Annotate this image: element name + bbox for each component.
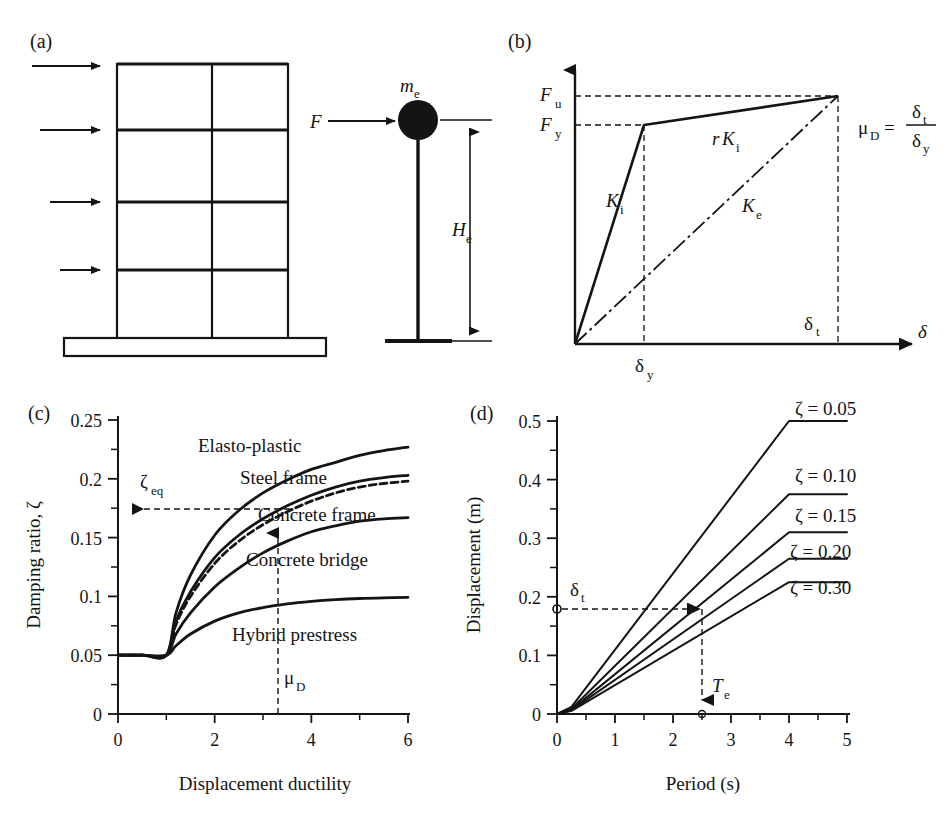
equation-mu: μ xyxy=(858,117,868,138)
panel-c: (c) 024600.050.10.150.20.25 Elasto-plast… xyxy=(23,402,413,794)
series-label: Concrete frame xyxy=(258,504,376,525)
sdof-mass-label: m xyxy=(400,75,414,96)
y-tick-label: 0 xyxy=(93,705,102,725)
x-tick-label: 2 xyxy=(210,730,219,750)
zeta-eq-subscript: eq xyxy=(151,483,164,498)
panel-c-tick-labels: 024600.050.10.150.20.25 xyxy=(71,411,413,750)
panel-d-y-axis-title: Displacement (m) xyxy=(463,497,485,634)
y-tick-label: 0.2 xyxy=(80,470,103,490)
y-tick-label: 0.15 xyxy=(71,529,103,549)
x-tick-label: 5 xyxy=(843,730,852,750)
y-tick-label: 0.4 xyxy=(519,471,542,491)
mu-d-subscript: D xyxy=(296,679,305,694)
series-label: ζ = 0.05 xyxy=(795,398,856,419)
panel-b-rki-label: K xyxy=(721,128,736,149)
x-tick-label: 3 xyxy=(727,730,736,750)
x-tick-label: 0 xyxy=(114,730,123,750)
y-tick-label: 0.1 xyxy=(519,646,542,666)
sdof-mass-subscript: e xyxy=(414,86,420,101)
series-label: ζ = 0.30 xyxy=(790,577,851,598)
figure-container: (a) F m xyxy=(0,0,950,818)
equation-mu-subscript: D xyxy=(870,128,879,143)
panel-c-label: (c) xyxy=(28,402,50,425)
y-tick-label: 0.3 xyxy=(519,529,542,549)
panel-b-rki-prefix: r xyxy=(712,128,720,149)
y-tick-label: 0.1 xyxy=(80,587,103,607)
y-tick-label: 0.5 xyxy=(519,412,542,432)
panel-b-ki-label: K xyxy=(605,190,620,211)
panel-d: (d) 01234500.10.20.30.40.5 ζ = 0.05ζ = 0… xyxy=(463,398,856,795)
series-label: ζ = 0.10 xyxy=(795,465,856,486)
panel-b-fy-label: F xyxy=(539,114,552,135)
panel-c-y-axis-title: Damping ratio, ζ xyxy=(23,501,44,629)
panel-b-ductility-equation: μ D = δ t δ y xyxy=(858,101,936,156)
panel-d-x-axis-title: Period (s) xyxy=(666,773,740,795)
sdof-height-label: H xyxy=(451,219,467,240)
series-label: ζ = 0.20 xyxy=(790,541,851,562)
panel-b-fu-label: F xyxy=(539,84,552,105)
panel-a: (a) F m xyxy=(30,30,492,356)
y-tick-label: 0 xyxy=(532,705,541,725)
panel-b-rki-subscript: i xyxy=(736,140,740,155)
panel-b-delta-y-subscript: y xyxy=(647,367,654,382)
panel-c-ticks xyxy=(108,420,408,723)
equation-equals: = xyxy=(884,117,895,138)
panel-d-label: (d) xyxy=(470,402,493,425)
series-label: Concrete bridge xyxy=(246,549,368,570)
mu-d-label: μ xyxy=(284,667,294,688)
panel-b-delta-t-subscript: t xyxy=(816,324,820,339)
panel-b-ke-label: K xyxy=(741,195,756,216)
panel-c-x-axis-title: Displacement ductility xyxy=(179,773,352,794)
building-frame xyxy=(64,63,326,356)
equation-denominator-subscript: y xyxy=(923,141,930,156)
panel-b-ke-subscript: e xyxy=(756,207,762,222)
equation-denominator: δ xyxy=(912,130,921,151)
y-tick-label: 0.25 xyxy=(71,411,103,431)
x-tick-label: 1 xyxy=(611,730,620,750)
series-label: Elasto-plastic xyxy=(198,435,301,456)
period-subscript: e xyxy=(724,687,730,702)
panel-b: (b) δ F u F y δ y δ t K i r K i K e xyxy=(508,30,936,382)
sdof-force-label: F xyxy=(309,111,322,132)
series-label: Steel frame xyxy=(240,467,327,488)
x-tick-label: 4 xyxy=(785,730,794,750)
sdof-mass-icon xyxy=(398,100,438,140)
x-tick-label: 0 xyxy=(553,730,562,750)
panel-b-fy-subscript: y xyxy=(555,126,562,141)
delta-t-label: δ xyxy=(570,579,579,600)
y-tick-label: 0.2 xyxy=(519,588,542,608)
series-label: Hybrid prestress xyxy=(232,624,357,645)
delta-t-subscript: t xyxy=(581,590,585,605)
sdof-oscillator: F m e H e xyxy=(309,75,492,341)
panel-b-label: (b) xyxy=(508,30,531,53)
y-tick-label: 0.05 xyxy=(71,646,103,666)
panel-b-delta-t-label: δ xyxy=(804,313,813,334)
panel-b-x-axis-label: δ xyxy=(918,321,928,342)
x-tick-label: 4 xyxy=(307,730,316,750)
zeta-eq-label: ζ xyxy=(140,471,148,492)
panel-d-series-labels: ζ = 0.05ζ = 0.10ζ = 0.15ζ = 0.20ζ = 0.30 xyxy=(790,398,856,598)
x-tick-label: 6 xyxy=(404,730,413,750)
panel-b-delta-y-label: δ xyxy=(635,355,644,376)
frame-foundation xyxy=(64,338,326,356)
equation-numerator: δ xyxy=(912,101,921,122)
x-tick-label: 2 xyxy=(669,730,678,750)
period-label: T xyxy=(712,675,724,696)
sdof-height-subscript: e xyxy=(466,231,472,246)
panel-b-ki-subscript: i xyxy=(620,202,624,217)
figure-svg: (a) F m xyxy=(0,0,950,818)
panel-a-label: (a) xyxy=(30,30,52,53)
panel-b-fu-subscript: u xyxy=(555,96,562,111)
series-label: ζ = 0.15 xyxy=(795,505,856,526)
lateral-force-arrows xyxy=(32,66,100,270)
